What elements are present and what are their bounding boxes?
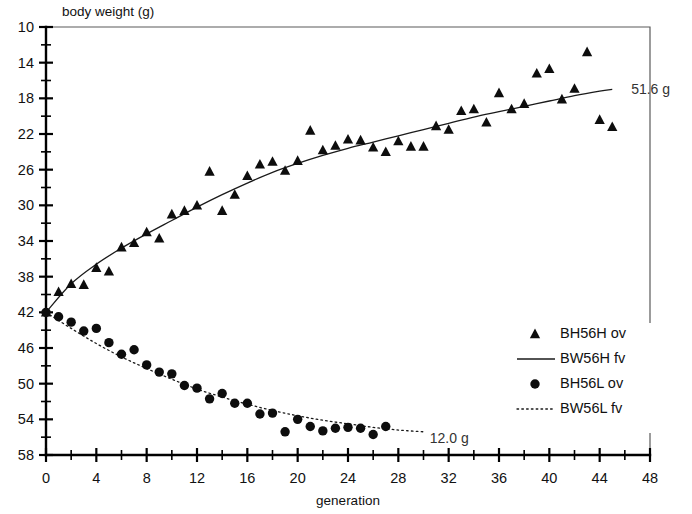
x-tick-label: 24 [340,470,356,486]
high-line-fit-curve [46,89,612,312]
high-line-asymptote: 51.6 g [631,81,670,97]
data-point-marker [167,209,177,219]
body-weight-scatter-chart: 58545046423834302622181410 0481216202428… [0,0,692,514]
legend-circle-icon [530,379,539,388]
data-point-marker [444,124,454,134]
data-point-marker [53,286,63,296]
data-point-marker [104,266,114,276]
data-point-marker [117,350,126,359]
data-point-marker [280,427,289,436]
data-point-marker [41,308,50,317]
data-point-marker [204,166,214,176]
high-line-data-points [41,47,618,317]
data-point-marker [305,125,315,135]
data-point-marker [154,233,164,243]
y-tick-label: 38 [18,269,34,285]
data-point-marker [293,155,303,165]
data-point-marker [167,369,176,378]
y-tick-label: 54 [18,411,34,427]
data-point-marker [582,47,592,57]
legend-item-label: BW56L fv [560,400,623,416]
data-point-marker [418,141,428,151]
x-tick-label: 40 [541,470,557,486]
data-point-marker [481,117,491,127]
data-point-marker [494,88,504,98]
data-point-marker [267,156,277,166]
data-point-marker [569,83,579,93]
y-tick-label: 26 [18,162,34,178]
y-axis-tick-labels: 58545046423834302622181410 [18,19,34,463]
data-point-marker [532,68,542,78]
y-tick-label: 34 [18,233,34,249]
x-axis-title: generation [316,493,380,508]
data-point-marker [406,141,416,151]
data-point-marker [205,394,214,403]
x-tick-label: 36 [491,470,507,486]
data-point-marker [544,64,554,74]
data-point-marker [217,389,226,398]
chart-container: 58545046423834302622181410 0481216202428… [0,0,692,514]
data-point-marker [456,105,466,115]
data-point-marker [217,205,227,215]
x-tick-label: 12 [189,470,205,486]
data-point-marker [179,205,189,215]
low-line-asymptote: 12.0 g [430,430,469,446]
y-tick-label: 22 [18,126,34,142]
data-point-marker [129,345,138,354]
x-tick-label: 32 [441,470,457,486]
data-point-marker [368,430,377,439]
y-axis-title: body weight (g) [62,4,154,19]
x-axis-tick-labels: 04812162024283236404448 [42,470,658,486]
y-tick-label: 18 [18,90,34,106]
data-point-marker [54,312,63,321]
data-point-marker [381,146,391,156]
data-point-marker [330,140,340,150]
data-point-marker [66,317,75,326]
y-tick-label: 46 [18,340,34,356]
data-point-marker [92,324,101,333]
data-point-marker [381,422,390,431]
y-tick-label: 14 [18,55,34,71]
x-tick-label: 4 [92,470,100,486]
data-point-marker [607,121,617,131]
x-tick-label: 0 [42,470,50,486]
data-point-marker [268,408,277,417]
data-point-marker [306,422,315,431]
data-point-marker [155,367,164,376]
data-point-marker [356,424,365,433]
chart-legend: BH56H ovBW56H fvBH56L ovBW56L fv [505,323,653,433]
data-point-marker [242,171,252,181]
data-point-marker [79,279,89,289]
data-point-marker [142,360,151,369]
y-tick-label: 30 [18,197,34,213]
data-point-marker [255,409,264,418]
data-point-marker [318,426,327,435]
data-point-marker [355,135,365,145]
data-point-marker [595,114,605,124]
low-line-data-points [41,308,390,440]
x-tick-label: 44 [592,470,608,486]
x-tick-label: 16 [239,470,255,486]
data-point-marker [230,399,239,408]
data-point-marker [79,326,88,335]
x-tick-label: 8 [143,470,151,486]
data-point-marker [469,104,479,114]
legend-item-label: BH56H ov [560,325,627,341]
data-point-marker [318,145,328,155]
data-point-marker [343,423,352,432]
legend-item-label: BH56L ov [560,375,624,391]
y-tick-label: 42 [18,304,34,320]
y-tick-label: 10 [18,19,34,35]
low-line-fit-curve [46,312,424,431]
x-tick-label: 20 [290,470,306,486]
data-point-marker [293,415,302,424]
y-tick-label: 58 [18,447,34,463]
data-point-marker [243,399,252,408]
data-point-marker [519,98,529,108]
data-point-marker [255,159,265,169]
x-tick-label: 48 [642,470,658,486]
data-point-marker [331,424,340,433]
data-point-marker [104,338,113,347]
data-point-marker [343,134,353,144]
data-point-marker [192,383,201,392]
